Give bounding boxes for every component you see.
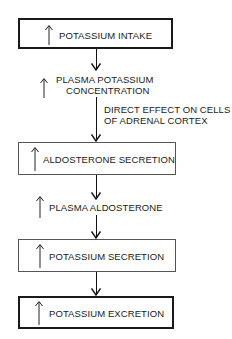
intermediate-label: PLASMA ALDOSTERONE: [49, 202, 163, 213]
box-label: ALDOSTERONE SECRETION: [43, 154, 175, 165]
box-label: POTASSIUM SECRETION: [49, 251, 164, 262]
box-potassium-excretion: POTASSIUM EXCRETION: [18, 296, 174, 329]
down-arrow-icon: [91, 134, 101, 142]
box-label: POTASSIUM EXCRETION: [49, 308, 164, 319]
box-potassium-intake: POTASSIUM INTAKE: [18, 18, 173, 49]
intermediate-label: CONCENTRATION: [66, 85, 149, 96]
box-aldosterone-secretion: ALDOSTERONE SECRETION: [18, 142, 176, 175]
annotation-label: DIRECT EFFECT ON CELLS: [104, 104, 230, 115]
intermediate-label: PLASMA POTASSIUM: [56, 74, 154, 85]
down-arrow-icon: [91, 63, 101, 71]
up-arrow-icon: [36, 196, 44, 218]
up-arrow-icon: [35, 301, 43, 325]
down-arrow-icon: [91, 288, 101, 296]
annotation-label: OF ADRENAL CORTEX: [104, 115, 208, 126]
box-potassium-secretion: POTASSIUM SECRETION: [18, 239, 176, 272]
connector-line: [96, 97, 98, 139]
up-arrow-icon: [45, 25, 53, 45]
down-arrow-icon: [91, 192, 101, 200]
up-arrow-icon: [40, 78, 48, 98]
up-arrow-icon: [36, 244, 44, 268]
up-arrow-icon: [31, 147, 39, 171]
box-label: POTASSIUM INTAKE: [59, 30, 152, 41]
down-arrow-icon: [91, 231, 101, 239]
